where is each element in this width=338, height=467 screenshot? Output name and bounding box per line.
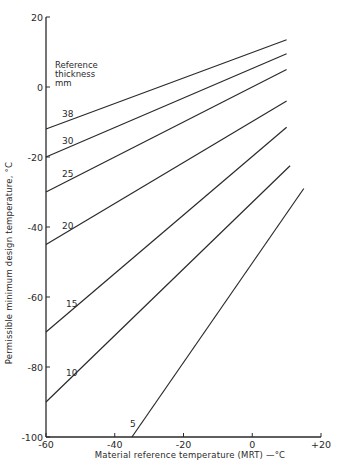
y-axis-title: Permissible minimum design temperature, …: [4, 162, 14, 364]
y-tick-label: 20: [31, 12, 43, 23]
y-tick-label: -80: [27, 362, 43, 373]
series-line-20: [46, 101, 287, 245]
y-tick-label: -40: [27, 222, 43, 233]
series-line-25: [46, 70, 287, 193]
series-label-20: 20: [62, 221, 74, 231]
series-label-38: 38: [62, 109, 74, 119]
series-label-10: 10: [66, 368, 78, 378]
legend-title: Referencethicknessmm: [55, 60, 98, 88]
series-label-30: 30: [62, 136, 74, 146]
chart: 200-20-40-60-80-100-60-40-200+20 3830252…: [0, 0, 338, 467]
series-label-15: 15: [66, 299, 77, 309]
x-tick-label: -60: [38, 439, 54, 450]
series-line-15: [46, 127, 287, 332]
x-tick-label: 0: [249, 439, 255, 450]
x-axis-title: Material reference temperature (MRT) —°C: [95, 450, 285, 460]
x-tick-label: -40: [107, 439, 123, 450]
y-tick-label: 0: [37, 82, 43, 93]
series-label-25: 25: [62, 169, 73, 179]
series-line-38: [46, 40, 287, 129]
series-lines: 3830252015105: [46, 40, 304, 437]
x-tick-label: -20: [176, 439, 192, 450]
series-label-5: 5: [130, 419, 136, 429]
series-line-5: [132, 189, 304, 438]
x-tick-label: +20: [311, 439, 331, 450]
legend-title-line: mm: [55, 78, 72, 88]
y-tick-label: -20: [27, 152, 43, 163]
y-tick-label: -60: [27, 292, 43, 303]
series-line-10: [46, 166, 290, 402]
